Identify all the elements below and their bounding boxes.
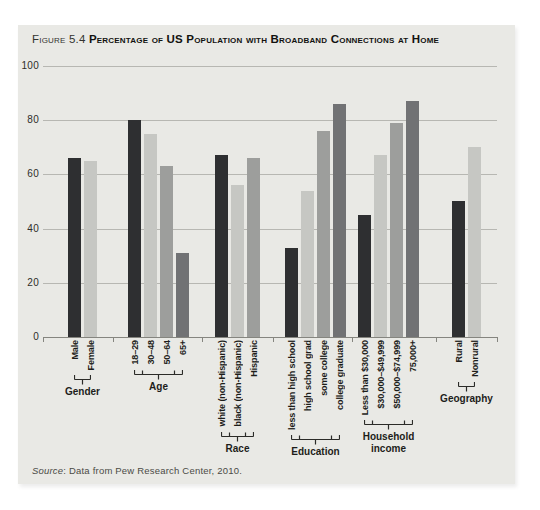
page: Figure 5.4 Percentage of US Population w…	[0, 0, 540, 510]
x-labels-row: white (non-Hispanic)black (non-Hispanic)…	[215, 340, 260, 427]
label-group-education: less than high schoolhigh school gradsom…	[285, 340, 346, 457]
x-label-high-school-grad: high school grad	[302, 340, 314, 411]
group-name-education: Education	[291, 446, 339, 458]
label-group-race: white (non-Hispanic)black (non-Hispanic)…	[215, 340, 260, 454]
group-name-gender: Gender	[65, 386, 100, 398]
bar-female	[84, 161, 97, 337]
x-label-less-than-30-000: Less than $30,000	[359, 340, 371, 415]
bar-group-education	[285, 66, 346, 337]
bar-30-48	[144, 134, 157, 337]
x-label-50-000-74-999: $50,000–$74,999	[391, 340, 403, 409]
x-label-slot: 50–64	[160, 340, 173, 365]
label-group-age: 18–2930–4850–6465+Age	[128, 340, 189, 392]
x-labels-row: 18–2930–4850–6465+	[128, 340, 189, 365]
bar-50-000-74-999	[390, 123, 403, 337]
x-axis-tick	[352, 337, 353, 342]
source-note: Source: Data from Pew Research Center, 2…	[32, 465, 242, 476]
source-text: : Data from Pew Research Center, 2010.	[63, 465, 242, 476]
gridline	[43, 66, 497, 67]
x-label-slot: Nonrural	[468, 340, 481, 377]
x-label-slot: Hispanic	[247, 340, 260, 377]
bar-75-000	[406, 101, 419, 337]
y-axis-tick-label: 80	[18, 114, 39, 125]
x-label-female: Female	[85, 340, 97, 370]
bar-30-000-49-999	[374, 155, 387, 337]
bar-group-age	[128, 66, 189, 337]
x-label-nonrural: Nonrural	[469, 340, 481, 377]
group-bracket-icon	[134, 367, 183, 380]
x-label-slot: Rural	[452, 340, 465, 363]
x-label-slot: some college	[317, 340, 330, 396]
x-label-slot: $50,000–$74,999	[390, 340, 403, 409]
y-axis-tick-label: 100	[18, 60, 39, 71]
bar-group-gender	[68, 66, 97, 337]
figure-heading: Figure 5.4 Percentage of US Population w…	[32, 33, 509, 45]
x-label-slot: Female	[84, 340, 97, 370]
bar-rural	[452, 201, 465, 337]
x-label-less-than-high-school: less than high school	[286, 340, 298, 430]
bar-65	[176, 253, 189, 337]
bar-18-29	[128, 120, 141, 337]
x-label-hispanic: Hispanic	[248, 340, 260, 377]
bar-some-college	[317, 131, 330, 337]
label-group-geography: RuralNonruralGeography	[452, 340, 481, 404]
x-axis-tick	[273, 337, 274, 342]
x-label-30-48: 30–48	[145, 340, 157, 365]
x-label-18-29: 18–29	[129, 340, 141, 365]
x-label-slot: high school grad	[301, 340, 314, 411]
bar-less-than-30-000	[358, 215, 371, 337]
x-labels-row: RuralNonrural	[452, 340, 481, 377]
x-label-rural: Rural	[453, 340, 465, 363]
x-label-slot: 65+	[176, 340, 189, 355]
x-label-slot: Male	[68, 340, 81, 360]
x-label-slot: white (non-Hispanic)	[215, 340, 228, 427]
bar-group-household-income	[358, 66, 419, 337]
bar-white-non-hispanic	[215, 155, 228, 337]
figure-number: Figure 5.4	[32, 33, 86, 45]
bar-nonrural	[468, 147, 481, 337]
bar-group-geography	[452, 66, 481, 337]
x-label-75-000: 75,000+	[407, 340, 419, 372]
group-name-geography: Geography	[440, 393, 493, 405]
x-label-college-graduate: college graduate	[334, 340, 346, 410]
x-label-slot: black (non-Hispanic)	[231, 340, 244, 427]
group-bracket-icon	[221, 429, 254, 442]
y-axis-tick-label: 60	[18, 168, 39, 179]
group-bracket-icon	[291, 432, 340, 445]
gridline	[43, 174, 497, 175]
label-group-gender: MaleFemaleGender	[68, 340, 97, 398]
x-label-65: 65+	[177, 340, 189, 355]
gridline	[43, 229, 497, 230]
x-label-30-000-49-999: $30,000–$49,999	[375, 340, 387, 409]
x-label-slot: 75,000+	[406, 340, 419, 372]
x-label-black-non-hispanic: black (non-Hispanic)	[232, 340, 244, 427]
x-label-slot: less than high school	[285, 340, 298, 430]
x-labels-row: Less than $30,000$30,000–$49,999$50,000–…	[358, 340, 419, 415]
x-labels-row: less than high schoolhigh school gradsom…	[285, 340, 346, 430]
x-axis-tick	[497, 337, 498, 342]
source-label: Source	[32, 465, 63, 476]
x-labels-row: MaleFemale	[68, 340, 97, 370]
x-label-white-non-hispanic: white (non-Hispanic)	[216, 340, 228, 427]
group-bracket-icon	[74, 372, 91, 385]
x-label-male: Male	[69, 340, 81, 360]
gridline	[43, 283, 497, 284]
label-group-household-income: Less than $30,000$30,000–$49,999$50,000–…	[358, 340, 419, 454]
x-label-slot: Less than $30,000	[358, 340, 371, 415]
figure-panel: Figure 5.4 Percentage of US Population w…	[18, 25, 515, 484]
bar-black-non-hispanic	[231, 185, 244, 337]
x-label-slot: $30,000–$49,999	[374, 340, 387, 409]
group-bracket-icon	[364, 417, 413, 430]
bar-college-graduate	[333, 104, 346, 337]
x-label-some-college: some college	[318, 340, 330, 396]
y-axis-tick-label: 0	[18, 331, 39, 342]
x-label-slot: 18–29	[128, 340, 141, 365]
group-name-race: Race	[226, 443, 250, 455]
group-bracket-icon	[458, 379, 475, 392]
x-axis-tick	[436, 337, 437, 342]
gridline	[43, 120, 497, 121]
y-axis-tick-label: 40	[18, 223, 39, 234]
x-axis-tick	[113, 337, 114, 342]
x-label-50-64: 50–64	[161, 340, 173, 365]
bar-hispanic	[247, 158, 260, 337]
